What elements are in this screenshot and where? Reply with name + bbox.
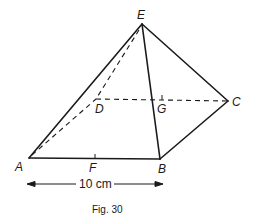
hidden-edges [32,30,228,155]
figure-caption: Fig. 30 [92,204,123,215]
edge-eb [142,24,160,159]
pyramid-diagram: E A B C D G F 10 cm Fig. 30 [0,0,255,220]
label-d: D [95,102,104,116]
edge-ad [32,99,96,155]
arrowhead-right-icon [155,182,163,187]
edge-bc [160,101,228,159]
label-g: G [157,102,166,116]
edge-ec [142,24,228,101]
visible-edges [29,24,228,159]
label-c: C [232,95,241,109]
label-b: B [158,162,166,176]
label-e: E [137,8,146,22]
label-a: A [14,160,23,174]
edge-ab [29,158,160,159]
dimension-label: 10 cm [79,177,112,191]
edge-ed [96,30,139,99]
arrowhead-left-icon [27,182,35,187]
edge-ea [29,24,142,158]
label-f: F [89,161,97,175]
